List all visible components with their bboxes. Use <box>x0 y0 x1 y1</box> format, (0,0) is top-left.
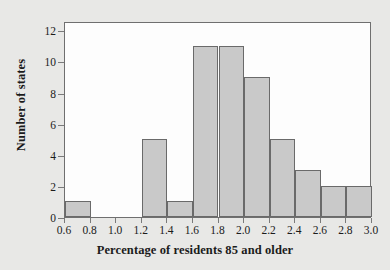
x-tick-mark <box>64 218 65 223</box>
y-tick-mark <box>58 156 64 157</box>
y-tick-label: 0 <box>26 212 56 224</box>
histogram-bar <box>244 77 270 217</box>
y-tick-label: 8 <box>26 88 56 100</box>
x-tick-mark <box>141 218 142 223</box>
x-tick-mark <box>269 218 270 223</box>
y-tick-label: 10 <box>26 56 56 68</box>
x-tick-mark <box>371 218 372 223</box>
y-tick-mark <box>58 31 64 32</box>
y-tick-mark <box>58 62 64 63</box>
y-tick-label: 2 <box>26 181 56 193</box>
bars-container <box>65 23 370 217</box>
x-tick-mark <box>115 218 116 223</box>
histogram-bar <box>193 46 219 217</box>
histogram-bar <box>142 139 168 217</box>
x-tick-mark <box>166 218 167 223</box>
x-tick-mark <box>320 218 321 223</box>
histogram-bar <box>219 46 245 217</box>
histogram-figure: Number of states 024681012 0.60.81.01.21… <box>0 0 390 270</box>
y-tick-label: 4 <box>26 150 56 162</box>
y-tick-label: 12 <box>26 25 56 37</box>
histogram-bar <box>295 170 321 217</box>
histogram-bar <box>346 186 372 217</box>
x-tick-label: 3.0 <box>354 224 388 236</box>
plot-area <box>64 22 371 218</box>
x-tick-mark <box>345 218 346 223</box>
x-tick-mark <box>90 218 91 223</box>
x-tick-mark <box>294 218 295 223</box>
y-tick-label: 6 <box>26 119 56 131</box>
y-tick-mark <box>58 125 64 126</box>
x-tick-mark <box>218 218 219 223</box>
x-axis-title: Percentage of residents 85 and older <box>0 243 390 258</box>
y-tick-mark <box>58 218 64 219</box>
histogram-bar <box>167 201 193 217</box>
x-tick-mark <box>192 218 193 223</box>
histogram-bar <box>321 186 347 217</box>
histogram-bar <box>270 139 296 217</box>
histogram-bar <box>65 201 91 217</box>
x-tick-mark <box>243 218 244 223</box>
y-tick-mark <box>58 187 64 188</box>
y-tick-mark <box>58 94 64 95</box>
